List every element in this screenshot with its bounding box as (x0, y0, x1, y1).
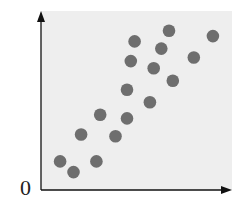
data-point (67, 166, 80, 179)
data-point (121, 112, 134, 125)
origin-label: 0 (20, 177, 31, 199)
data-point (75, 128, 88, 141)
data-point (207, 30, 220, 43)
data-point (128, 35, 141, 48)
data-point (163, 24, 176, 37)
data-point (188, 51, 201, 64)
data-point (125, 55, 138, 68)
data-point (147, 62, 160, 75)
data-point (155, 42, 168, 55)
data-point (144, 96, 157, 109)
data-point (94, 109, 107, 122)
data-point (121, 84, 134, 97)
data-point (90, 155, 103, 168)
data-point (167, 75, 180, 88)
data-point (54, 155, 67, 168)
scatter-plot (0, 0, 245, 213)
data-point (109, 130, 122, 143)
